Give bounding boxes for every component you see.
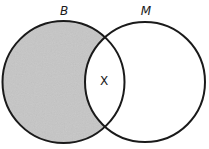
- intersection-label: X: [100, 75, 108, 87]
- set-label-m: M: [141, 5, 151, 17]
- set-label-b: B: [60, 5, 68, 17]
